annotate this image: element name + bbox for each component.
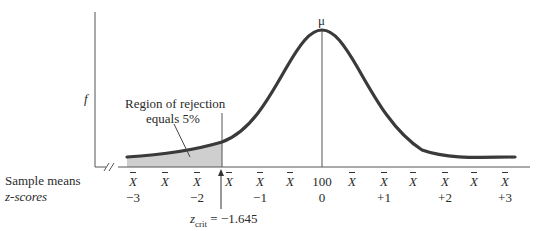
xbar-tick-label: X bbox=[501, 175, 509, 188]
normal-curve-plot bbox=[0, 0, 548, 231]
xbar-tick-label: X bbox=[161, 175, 169, 188]
xbar-tick-label: X bbox=[441, 175, 449, 188]
xbar-tick-label: X bbox=[348, 175, 356, 188]
region-label-line2: equals 5% bbox=[146, 112, 200, 125]
z-tick-label: +3 bbox=[498, 191, 512, 204]
xbar-tick-label: X bbox=[129, 175, 137, 188]
zcrit-label: zcrit = −1.645 bbox=[190, 212, 257, 229]
z-tick-label: −2 bbox=[190, 191, 204, 204]
xbar-tick-label: X bbox=[256, 175, 264, 188]
y-axis-label: f bbox=[84, 92, 88, 105]
z-tick-label: 0 bbox=[319, 191, 326, 204]
region-label-line1: Region of rejection bbox=[125, 97, 225, 110]
xbar-tick-label: X bbox=[286, 175, 294, 188]
z-tick-label: −1 bbox=[253, 191, 267, 204]
mu-label: μ bbox=[318, 14, 325, 27]
zcrit-subscript: crit bbox=[195, 219, 207, 229]
xbar-tick-label: X bbox=[409, 175, 417, 188]
z-tick-label: +1 bbox=[377, 191, 391, 204]
zcrit-arrow-head bbox=[218, 169, 224, 176]
zcrit-value: = −1.645 bbox=[207, 211, 257, 226]
z-tick-label: −3 bbox=[126, 191, 140, 204]
xbar-tick-label: X bbox=[380, 175, 388, 188]
mean-value-label: 100 bbox=[312, 175, 332, 188]
xbar-tick-label: X bbox=[225, 175, 233, 188]
z-tick-label: +2 bbox=[438, 191, 452, 204]
xbar-tick-label: X bbox=[470, 175, 478, 188]
z-scores-row-label: z-scores bbox=[5, 190, 47, 203]
normal-curve bbox=[127, 30, 515, 157]
sample-means-row-label: Sample means bbox=[5, 174, 80, 187]
xbar-tick-label: X bbox=[193, 175, 201, 188]
axis-break-mark bbox=[109, 163, 114, 171]
